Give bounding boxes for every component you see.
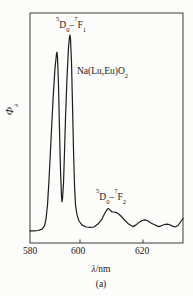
sample-sub: 2 [125, 72, 128, 79]
term-sup: 7 [114, 187, 117, 194]
transition-label-5d0-7f1: 5D0–7F1 [56, 20, 86, 30]
figure-panel: 5D0–7F1 Na(Lu,Eu)O2 5D0–7F2 Φλ 580 600 6… [0, 0, 193, 296]
x-axis-unit: /nm [96, 264, 111, 274]
term-sub: 0 [66, 26, 69, 33]
term-sub: 2 [123, 198, 126, 205]
transition-label-5d0-7f2: 5D0–7F2 [96, 192, 126, 202]
term-sub: 1 [83, 26, 86, 33]
x-axis-label: λ/nm [92, 264, 111, 274]
sample-label: Na(Lu,Eu)O2 [77, 66, 128, 76]
term-sup: 5 [56, 15, 59, 22]
term-sup: 5 [96, 187, 99, 194]
term-base: F [77, 20, 82, 30]
x-tick-label-620: 620 [135, 246, 149, 256]
y-axis-symbol: Φ [3, 107, 15, 115]
y-axis-sub: λ [12, 104, 20, 107]
sample-base: Na(Lu,Eu)O [77, 66, 125, 76]
term-base: F [117, 192, 122, 202]
term-sup: 7 [74, 15, 77, 22]
x-tick-label-580: 580 [23, 246, 37, 256]
term-sub: 0 [106, 198, 109, 205]
x-tick-label-600: 600 [71, 246, 85, 256]
subfigure-caption: (a) [96, 279, 107, 289]
y-axis-label: Φλ [4, 104, 15, 115]
plot-frame [30, 13, 183, 243]
